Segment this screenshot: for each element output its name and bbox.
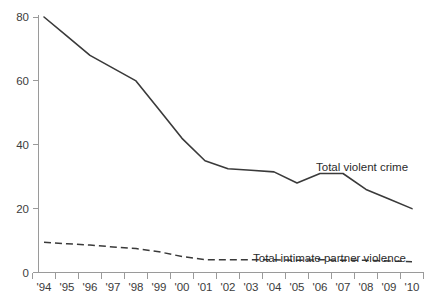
- x-tick-label: '99: [152, 281, 167, 293]
- x-tick-label: '06: [313, 281, 328, 293]
- x-tick-label: '98: [129, 281, 144, 293]
- x-tick-label: '00: [175, 281, 190, 293]
- y-tick-group: 020406080: [16, 11, 38, 279]
- y-tick-label: 20: [16, 203, 29, 215]
- x-tick-label: '94: [37, 281, 53, 293]
- x-tick-label: '10: [405, 281, 420, 293]
- x-tick-label: '09: [382, 281, 397, 293]
- series-group: [44, 17, 412, 262]
- x-tick-label: '03: [244, 281, 259, 293]
- x-tick-label: '02: [221, 281, 236, 293]
- y-tick-label: 80: [16, 11, 29, 23]
- x-tick-label: '04: [267, 281, 283, 293]
- series-total-violent-crime-line: [44, 17, 412, 209]
- series-label-total-intimate-partner-violence: Total intimate partner violence: [253, 252, 406, 264]
- x-tick-label: '01: [198, 281, 213, 293]
- x-tick-label: '07: [336, 281, 351, 293]
- chart-container: 020406080 '94'95'96'97'98'99'00'01'02'03…: [0, 0, 433, 308]
- series-label-total-violent-crime: Total violent crime: [316, 161, 408, 173]
- line-chart: 020406080 '94'95'96'97'98'99'00'01'02'03…: [0, 0, 433, 308]
- x-tick-label: '97: [106, 281, 121, 293]
- x-tick-label: '05: [290, 281, 305, 293]
- y-tick-label: 40: [16, 139, 29, 151]
- x-tick-label: '95: [60, 281, 75, 293]
- x-tick-label: '08: [359, 281, 374, 293]
- y-tick-label: 60: [16, 75, 29, 87]
- x-tick-group: '94'95'96'97'98'99'00'01'02'03'04'05'06'…: [33, 273, 424, 294]
- series-labels: Total violent crime Total intimate partn…: [253, 161, 408, 264]
- y-tick-label: 0: [23, 267, 29, 279]
- x-axis: '94'95'96'97'98'99'00'01'02'03'04'05'06'…: [33, 273, 425, 294]
- y-axis: 020406080: [16, 11, 38, 279]
- x-tick-label: '96: [83, 281, 98, 293]
